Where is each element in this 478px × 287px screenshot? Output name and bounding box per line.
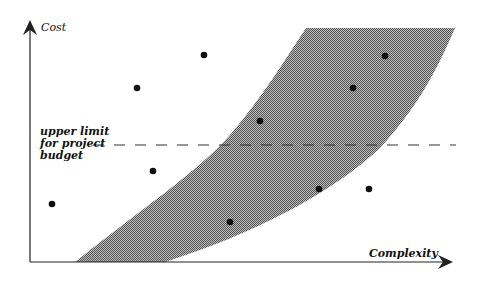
data-point: [134, 85, 141, 92]
y-axis-label: Cost: [41, 22, 66, 33]
data-point: [316, 186, 323, 193]
budget-label-line-3: budget: [40, 150, 83, 161]
data-point: [257, 118, 264, 125]
data-point: [382, 53, 389, 60]
data-point: [201, 52, 208, 59]
x-axis-label: Complexity: [369, 248, 438, 259]
data-point: [150, 168, 157, 175]
budget-label-line-1: upper limit: [40, 126, 109, 137]
data-point: [227, 219, 234, 226]
data-point: [350, 85, 357, 92]
data-point: [49, 201, 56, 208]
budget-label-line-2: for project: [40, 138, 105, 149]
data-point: [366, 186, 373, 193]
